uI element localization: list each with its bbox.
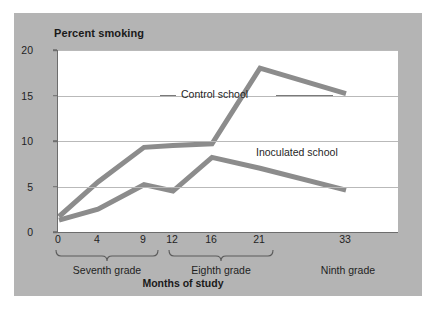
y-tick-label-10: 10 <box>3 135 33 147</box>
chart-title: Percent smoking <box>54 27 144 39</box>
x-tick-label-33: 33 <box>339 233 351 245</box>
x-tick-label-9: 9 <box>140 233 146 245</box>
y-tick-label-0: 0 <box>3 226 33 238</box>
grade-group-label-seventh: Seventh grade <box>73 264 141 276</box>
chart-figure: Percent smoking 20 15 10 5 0 Control sch… <box>14 13 422 296</box>
x-tick-label-16: 16 <box>205 233 217 245</box>
x-tick-label-21: 21 <box>253 233 265 245</box>
x-tick-label-0: 0 <box>55 233 61 245</box>
grade-group-label-ninth: Ninth grade <box>321 264 375 276</box>
x-tick-label-12: 12 <box>166 233 178 245</box>
plot-area <box>57 50 398 233</box>
series-label-inoculated-school: Inoculated school <box>256 146 338 158</box>
x-axis-title: Months of study <box>142 277 223 289</box>
series-label-control-school: Control school <box>181 88 248 100</box>
grade-group-label-eighth: Eighth grade <box>191 264 251 276</box>
annotation-leaders <box>58 50 398 232</box>
y-tick-label-20: 20 <box>3 44 33 56</box>
y-tick-label-15: 15 <box>3 90 33 102</box>
y-tick-label-5: 5 <box>3 181 33 193</box>
x-tick-label-4: 4 <box>94 233 100 245</box>
